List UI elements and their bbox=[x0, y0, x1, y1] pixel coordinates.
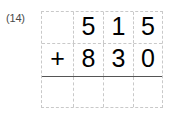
table-row: 5 1 5 bbox=[42, 12, 162, 43]
hundreds-cell-row2: 8 bbox=[73, 44, 103, 75]
operator-cell-row2: + bbox=[42, 44, 73, 75]
tens-cell-row2: 3 bbox=[103, 44, 133, 75]
answer-cell-ones[interactable] bbox=[133, 77, 162, 107]
ones-cell-row2: 0 bbox=[133, 44, 162, 75]
hundreds-cell-row1: 5 bbox=[73, 12, 103, 43]
digit-hundreds-row1: 5 bbox=[82, 14, 96, 39]
addition-problem: (14) 5 1 5 + 8 3 bbox=[0, 0, 171, 115]
ones-cell-row1: 5 bbox=[133, 12, 162, 43]
digit-tens-row2: 3 bbox=[112, 46, 126, 71]
answer-cell-hundreds[interactable] bbox=[73, 77, 103, 107]
plus-icon: + bbox=[50, 46, 65, 71]
digit-ones-row1: 5 bbox=[141, 14, 155, 39]
problem-number-label: (14) bbox=[6, 12, 25, 24]
table-row bbox=[42, 76, 162, 107]
operator-cell-row1 bbox=[42, 12, 73, 43]
place-value-grid: 5 1 5 + 8 3 0 bbox=[41, 11, 163, 108]
operator-cell-sum[interactable] bbox=[42, 77, 73, 107]
digit-ones-row2: 0 bbox=[141, 46, 155, 71]
digit-tens-row1: 1 bbox=[112, 14, 126, 39]
answer-cell-tens[interactable] bbox=[103, 77, 133, 107]
digit-hundreds-row2: 8 bbox=[82, 46, 96, 71]
tens-cell-row1: 1 bbox=[103, 12, 133, 43]
table-row: + 8 3 0 bbox=[42, 43, 162, 75]
